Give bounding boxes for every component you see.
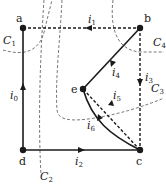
arrow-right-icon bbox=[78, 147, 85, 153]
edge-label-i5: i5 bbox=[113, 89, 121, 103]
edge-label-i2: i2 bbox=[75, 155, 83, 169]
node-label-d: d bbox=[19, 155, 26, 168]
arrow-down-icon bbox=[137, 79, 143, 86]
cutset-c2-line bbox=[40, 0, 44, 175]
node-c bbox=[137, 147, 143, 153]
node-label-e: e bbox=[71, 83, 78, 96]
node-d bbox=[20, 147, 26, 153]
arrow-curve-icon bbox=[97, 114, 103, 121]
node-label-c: c bbox=[136, 155, 142, 168]
edge-i5 bbox=[83, 89, 140, 150]
node-b bbox=[137, 25, 143, 31]
cutset-label-c1: C1 bbox=[3, 34, 16, 48]
cutset-label-c3: C3 bbox=[151, 82, 164, 96]
node-a bbox=[20, 25, 26, 31]
node-label-a: a bbox=[16, 12, 23, 25]
graph-diagram: a b c d e i0 i1 i2 i3 i4 i5 i6 C1 C2 C3 … bbox=[0, 0, 166, 187]
cutset-label-c2: C2 bbox=[40, 170, 53, 184]
edge-label-i6: i6 bbox=[87, 119, 96, 133]
cutset-label-c4: C4 bbox=[153, 36, 166, 50]
edge-label-i4: i4 bbox=[112, 66, 121, 80]
node-e bbox=[80, 86, 86, 92]
edge-label-i0: i0 bbox=[10, 89, 18, 103]
edge-i4 bbox=[83, 28, 140, 89]
node-label-b: b bbox=[144, 12, 151, 25]
edge-label-i1: i1 bbox=[88, 13, 96, 27]
arrow-up-icon bbox=[20, 83, 26, 90]
